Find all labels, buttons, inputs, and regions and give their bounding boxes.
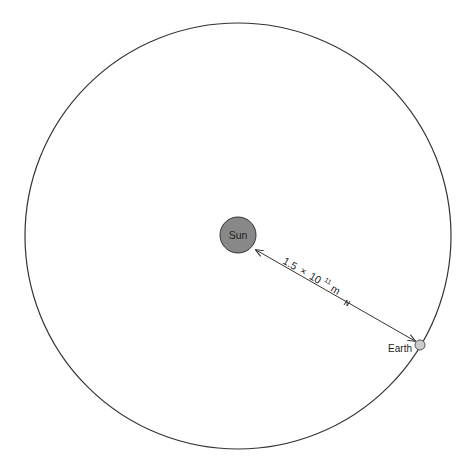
earth: Earth (388, 340, 425, 354)
sun-earth-orbit-diagram: Sun 1.5 × 10 11 m Earth (0, 0, 471, 469)
distance-label: 1.5 × 10 11 m (281, 250, 345, 297)
sun: Sun (220, 217, 256, 253)
earth-label: Earth (388, 343, 412, 354)
svg-text:1.5 × 10 11: 1.5 × 10 11 m (281, 250, 345, 297)
sun-label: Sun (229, 229, 248, 241)
